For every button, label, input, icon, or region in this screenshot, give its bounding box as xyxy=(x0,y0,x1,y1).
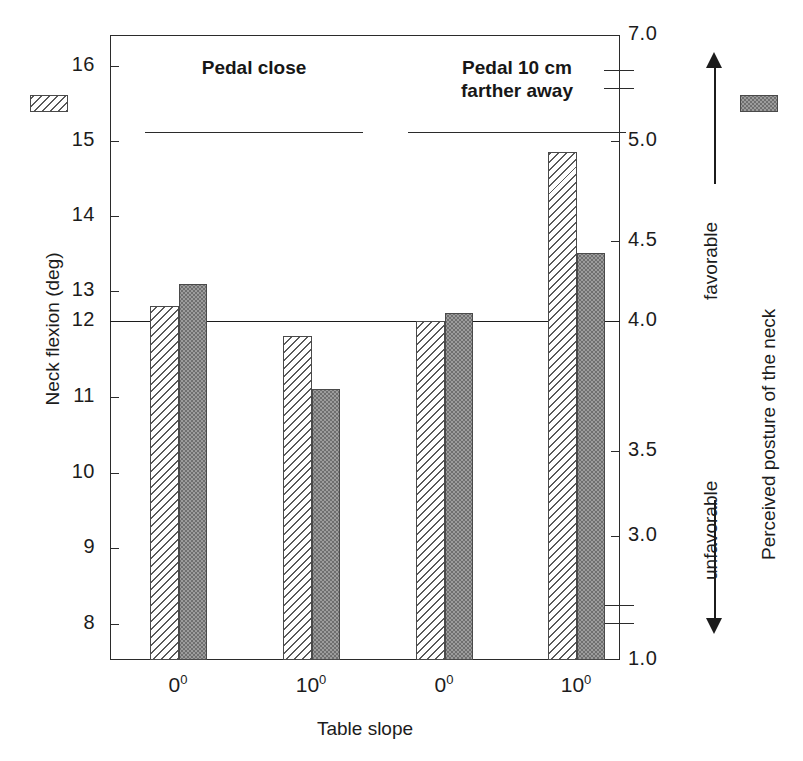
group-title-right-line1: Pedal 10 cm xyxy=(408,56,626,79)
hatched-series-swatch xyxy=(30,95,68,112)
axis-break-lower-top xyxy=(604,605,634,606)
y-left-tick-8 xyxy=(110,624,119,625)
x-tick-text-3: 0 xyxy=(435,673,447,696)
x-tick-text-4: 10 xyxy=(561,673,584,696)
group-title-left: Pedal close xyxy=(145,56,363,79)
y-left-tick-10 xyxy=(110,473,119,474)
arrow-down-icon xyxy=(706,618,722,634)
x-tick-label-3: 00 xyxy=(404,672,484,697)
x-tick-text-1: 0 xyxy=(169,673,181,696)
arrow-up-shaft xyxy=(714,66,716,184)
y-right-label-5-0: 5.0 xyxy=(628,128,694,151)
degree-sign-icon: 0 xyxy=(180,672,187,687)
y-left-label-15: 15 xyxy=(37,128,95,151)
favorable-label: favorable xyxy=(700,222,722,300)
y-right-label-1-0: 1.0 xyxy=(628,647,694,670)
bar-stippled-g1-10deg xyxy=(312,389,340,660)
y-left-label-8: 8 xyxy=(37,611,95,634)
axis-break-lower-bottom xyxy=(604,623,634,624)
x-axis-title: Table slope xyxy=(275,718,455,740)
y-right-label-3-5: 3.5 xyxy=(628,438,694,461)
group-rule-right xyxy=(408,132,626,133)
y-left-tick-14 xyxy=(110,216,119,217)
stippled-series-swatch xyxy=(740,95,778,112)
bar-hatched-g1-10deg xyxy=(283,336,312,660)
degree-sign-icon: 0 xyxy=(446,672,453,687)
group-title-right-line2: farther away xyxy=(408,79,626,102)
y-right-tick-3-0 xyxy=(611,536,620,537)
y-right-label-3-0: 3.0 xyxy=(628,523,694,546)
x-tick-label-1: 00 xyxy=(138,672,218,697)
y-left-tick-11 xyxy=(110,397,119,398)
degree-sign-icon: 0 xyxy=(584,672,591,687)
x-tick-label-4: 100 xyxy=(536,672,616,697)
bar-stippled-g1-0deg xyxy=(179,284,207,660)
y-right-label-4-5: 4.5 xyxy=(628,228,694,251)
y-left-tick-16 xyxy=(110,66,119,67)
y-right-label-4-0: 4.0 xyxy=(628,308,694,331)
x-tick-label-2: 100 xyxy=(271,672,351,697)
bar-hatched-g2-10deg xyxy=(548,152,577,660)
y-left-tick-9 xyxy=(110,548,119,549)
y-left-label-16: 16 xyxy=(37,53,95,76)
y-left-tick-13 xyxy=(110,291,119,292)
degree-sign-icon: 0 xyxy=(319,672,326,687)
group-rule-left xyxy=(145,132,363,133)
bar-hatched-g2-0deg xyxy=(416,321,445,660)
unfavorable-label: unfavorable xyxy=(700,481,722,580)
bar-hatched-g1-0deg xyxy=(150,306,179,660)
y-axis-right-title: Perceived posture of the neck xyxy=(758,309,780,560)
y-right-tick-3-5 xyxy=(611,451,620,452)
arrow-down-shaft xyxy=(714,500,716,618)
bar-stippled-g2-10deg xyxy=(577,253,605,660)
y-right-tick-4-5 xyxy=(611,241,620,242)
bar-stippled-g2-0deg xyxy=(445,313,473,660)
y-right-label-7-0: 7.0 xyxy=(628,22,694,45)
y-left-label-10: 10 xyxy=(37,460,95,483)
y-right-tick-5-0 xyxy=(611,141,620,142)
y-left-label-9: 9 xyxy=(37,535,95,558)
y-left-tick-15 xyxy=(110,141,119,142)
chart-figure: 16 15 14 13 12 11 10 9 8 Neck flexion (d… xyxy=(0,0,803,761)
y-axis-left-title: Neck flexion (deg) xyxy=(42,214,64,444)
x-tick-text-2: 10 xyxy=(296,673,319,696)
